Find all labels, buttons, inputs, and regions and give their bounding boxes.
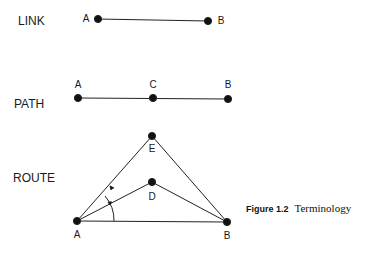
link-diagram [94,15,211,24]
node-link-b [204,17,211,24]
terminology-diagram [0,0,377,257]
angle-arc [105,196,114,221]
arrow-head-upper [110,186,114,190]
path-label-c: C [149,79,156,90]
figure-title: Terminology [295,202,352,214]
node-route-d [148,178,155,185]
route-label-b: B [224,230,231,241]
figure-caption: Figure 1.2Terminology [246,202,351,214]
node-path-c [149,94,156,101]
path-label-b: B [225,79,232,90]
node-route-e [148,132,155,139]
route-label-e: E [149,143,156,154]
node-path-a [74,94,81,101]
node-route-a [73,217,80,224]
route-label-d: D [148,191,155,202]
link-label-a: A [83,13,90,24]
figure-number: Figure 1.2 [246,204,289,214]
path-diagram [74,94,231,102]
link-label-b: B [218,15,225,26]
node-link-a [94,15,101,22]
path-label-a: A [75,79,82,90]
route-label-a: A [74,229,81,240]
node-route-b [223,218,230,225]
node-path-b [224,95,231,102]
